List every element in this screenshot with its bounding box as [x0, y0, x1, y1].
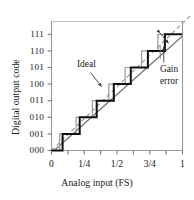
y-tick-label-110: 110: [16, 47, 44, 56]
x-tick-label-1: 1: [172, 159, 194, 169]
y-tick-label-111: 111: [16, 30, 44, 39]
gain-error-annotation-label-line2: error: [152, 77, 186, 86]
gain-error-annotation-label-line1: Gain: [152, 65, 186, 74]
ideal-annotation-arrow: [91, 73, 102, 87]
x-tick-label-1-2: 1/2: [106, 159, 128, 169]
x-tick-label-3-4: 3/4: [139, 159, 161, 169]
adc-gain-error-chart: 111 110 101 100 011 010 001 000 0 1/4 1/…: [0, 0, 194, 200]
y-axis-title: Digital output code: [11, 59, 21, 135]
x-tick-label-1-4: 1/4: [73, 159, 95, 169]
y-tick-label-000: 000: [16, 146, 44, 155]
x-axis-title: Analog input (FS): [0, 178, 194, 188]
actual-staircase: [52, 34, 183, 150]
ideal-annotation-label: Ideal: [77, 60, 96, 69]
y-axis-ticks: [48, 34, 52, 150]
x-axis-ticks: [52, 151, 183, 155]
x-tick-label-0: 0: [41, 159, 63, 169]
